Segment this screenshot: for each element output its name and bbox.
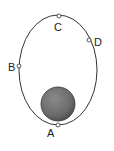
orbit-diagram: A B C D	[0, 0, 114, 151]
point-c-label: C	[54, 21, 62, 33]
point-b-label: B	[8, 61, 15, 73]
point-c-marker	[57, 14, 61, 18]
point-a-marker	[56, 123, 60, 127]
point-b-marker	[17, 64, 21, 68]
point-d-label: D	[94, 36, 102, 48]
planet	[41, 87, 75, 121]
point-d-marker	[87, 38, 91, 42]
point-a-label: A	[47, 127, 55, 139]
